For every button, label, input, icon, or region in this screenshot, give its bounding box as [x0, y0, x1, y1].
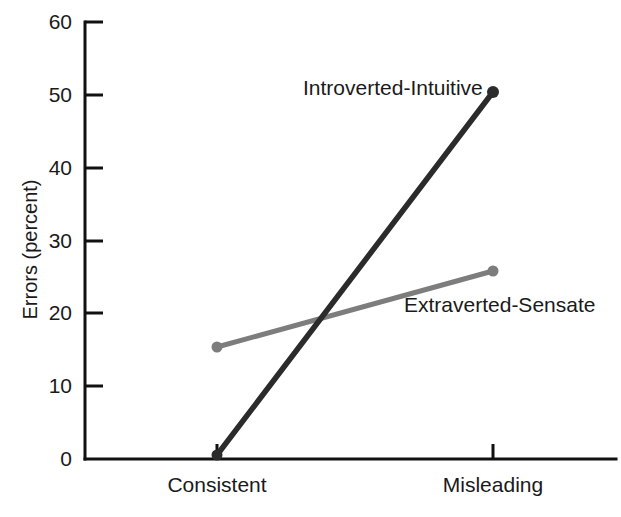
- data-point-extraverted-sensate-misleading: [488, 266, 499, 277]
- y-tick-label-10: 10: [10, 375, 72, 396]
- y-axis-title: Errors (percent): [19, 140, 42, 360]
- data-point-extraverted-sensate-consistent: [212, 342, 223, 353]
- y-tick-label-60: 60: [10, 11, 72, 32]
- series-label-introverted-intuitive: Introverted-Intuitive: [303, 77, 483, 98]
- y-tick-label-50: 50: [10, 84, 72, 105]
- data-point-introverted-intuitive-misleading: [487, 86, 499, 98]
- x-tick-label-misleading: Misleading: [413, 474, 573, 495]
- x-tick-label-consistent: Consistent: [137, 474, 297, 495]
- y-tick-label-0: 0: [10, 448, 72, 469]
- line-chart: 60 50 40 30 20 10 0 Errors (percent) Con…: [0, 0, 621, 517]
- series-label-extraverted-sensate: Extraverted-Sensate: [404, 294, 595, 315]
- data-point-introverted-intuitive-consistent: [212, 450, 223, 461]
- series-line-introverted-intuitive: [217, 92, 493, 455]
